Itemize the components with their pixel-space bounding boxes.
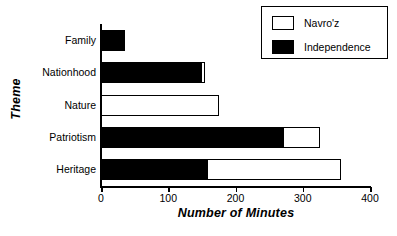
bar-segment: [101, 30, 125, 51]
y-axis-tick-label: Family: [2, 35, 96, 46]
y-axis-tick-label: Nature: [2, 100, 96, 111]
x-axis-tick-label: 300: [283, 192, 323, 204]
bar-segment: [207, 159, 341, 180]
legend-swatch-icon: [272, 40, 294, 54]
bar-chart: Theme FamilyNationhoodNaturePatriotismHe…: [0, 0, 397, 236]
x-axis-tick-label: 400: [350, 192, 390, 204]
bar-segment: [283, 127, 320, 148]
legend-label: Independence: [304, 41, 371, 53]
y-axis-tick-label: Heritage: [2, 164, 96, 175]
y-axis-tick-label: Patriotism: [2, 132, 96, 143]
legend: Navro'zIndependence: [261, 6, 388, 59]
y-axis-tick-labels: FamilyNationhoodNaturePatriotismHeritage: [0, 24, 96, 187]
x-axis-title: Number of Minutes: [101, 206, 371, 220]
y-axis-tick-label: Nationhood: [2, 67, 96, 78]
x-axis-tick-label: 200: [216, 192, 256, 204]
bar-segment: [101, 62, 201, 83]
legend-label: Navro'z: [304, 17, 339, 29]
bar-segment: [201, 62, 206, 83]
legend-swatch-icon: [272, 16, 294, 30]
bar-segment: [101, 159, 207, 180]
bar-segment: [101, 127, 283, 148]
bar-segment: [101, 95, 219, 116]
x-axis-tick-label: 0: [81, 192, 121, 204]
x-axis-tick-label: 100: [148, 192, 188, 204]
